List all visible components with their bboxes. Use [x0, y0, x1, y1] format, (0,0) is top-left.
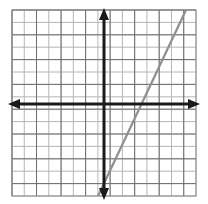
figure-root: y =	[0, 0, 208, 204]
coordinate-graph	[0, 0, 208, 204]
